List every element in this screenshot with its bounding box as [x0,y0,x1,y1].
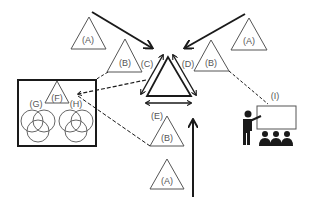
triangle-a-bottom: (A) [150,159,184,189]
dashed-line-b-left-to-box [95,72,108,80]
label-e: (E) [151,111,163,121]
triangle-a-topleft: (A) [71,17,106,49]
arrow-topleft-to-center [92,12,152,48]
label-g: (G) [30,99,43,109]
label-a-topright: (A) [243,36,255,46]
label-a-bottom: (A) [161,176,173,186]
dashed-arrow-center-to-f [78,80,146,94]
label-c: (C) [141,59,154,69]
label-b-left: (B) [119,58,131,68]
presenter-icon [243,106,296,146]
label-b-right: (B) [205,58,217,68]
diagram-canvas: (A) (A) (B) (B) (B) (A) (C) (D) (E) [0,0,311,205]
label-a-topleft: (A) [82,35,94,45]
dashed-line-b-right-to-i [229,71,268,104]
group-box: (F) (G) (H) [18,80,96,146]
label-d: (D) [182,59,195,69]
venn-g [21,110,55,142]
triangle-b-right: (B) [194,40,229,71]
label-h: (H) [70,99,83,109]
label-f: (F) [51,93,63,103]
venn-h [59,110,93,142]
dashed-line-f-to-b-bottom [78,96,150,146]
arrow-topright-to-center [185,14,245,48]
triangle-b-left: (B) [107,39,142,72]
triangle-a-topright: (A) [231,18,267,50]
label-b-bottom: (B) [161,133,173,143]
label-i: (I) [271,91,280,101]
